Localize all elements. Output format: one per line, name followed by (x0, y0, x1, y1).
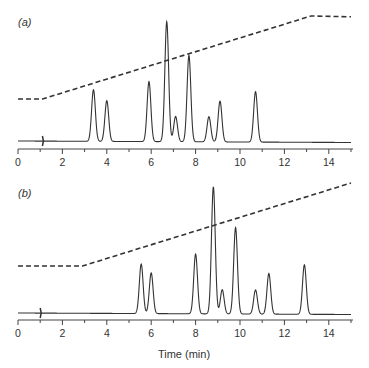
x-tick-label: 2 (59, 156, 65, 168)
x-tick-label: 8 (193, 156, 199, 168)
x-tick-label: 8 (193, 327, 199, 339)
x-tick-label: 6 (148, 156, 154, 168)
x-tick-label: 14 (323, 156, 335, 168)
panel-b-label: (b) (18, 187, 32, 199)
panel-a: (a) 02468101214 (15, 16, 353, 168)
panel-a-label: (a) (18, 16, 32, 28)
x-tick-label: 6 (148, 327, 154, 339)
x-tick-label: 0 (15, 327, 21, 339)
x-tick-label: 14 (323, 327, 335, 339)
chromatogram-trace-a (18, 22, 351, 143)
x-axis-title: Time (min) (158, 348, 210, 360)
gradient-profile-b (18, 183, 351, 266)
chromatogram-trace-b (18, 187, 351, 315)
panel-b: (b) 02468101214 Time (min) (15, 183, 353, 360)
x-tick-label: 12 (279, 327, 291, 339)
chromatogram-figure: (a) 02468101214 (b) 02468101214 Time (mi… (0, 0, 369, 368)
x-axis-b: 02468101214 (15, 308, 353, 339)
x-tick-label: 4 (104, 156, 110, 168)
x-tick-label: 2 (59, 327, 65, 339)
x-tick-label: 12 (279, 156, 291, 168)
x-tick-label: 10 (234, 156, 246, 168)
x-tick-label: 0 (15, 156, 21, 168)
gradient-profile-a (18, 16, 351, 99)
x-tick-label: 10 (234, 327, 246, 339)
x-tick-label: 4 (104, 327, 110, 339)
